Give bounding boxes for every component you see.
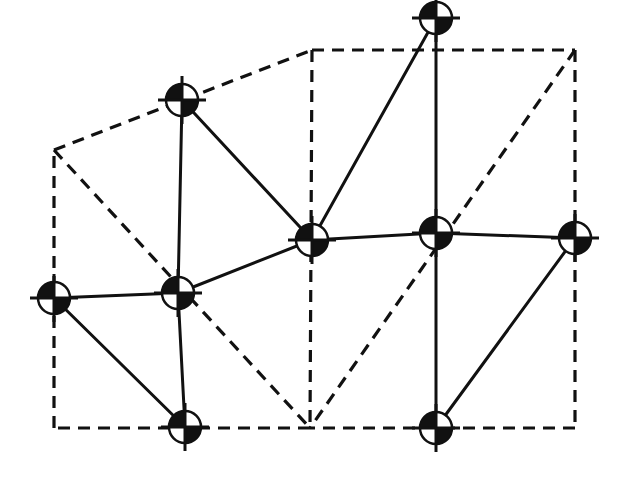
node-marker-icon <box>551 214 599 262</box>
mesh-diagram <box>0 0 624 478</box>
solid-edge-N1-N4 <box>178 100 182 293</box>
solid-edge-N4-N5 <box>178 240 312 293</box>
node-markers <box>30 0 599 452</box>
node-marker-icon <box>412 209 460 257</box>
node-marker-icon <box>412 0 460 42</box>
solid-edge-N7-N9 <box>436 238 575 428</box>
solid-edge-N3-N8 <box>54 298 185 427</box>
node-marker-icon <box>154 269 202 317</box>
node-marker-icon <box>412 404 460 452</box>
solid-edge-N1-N5 <box>182 100 312 240</box>
